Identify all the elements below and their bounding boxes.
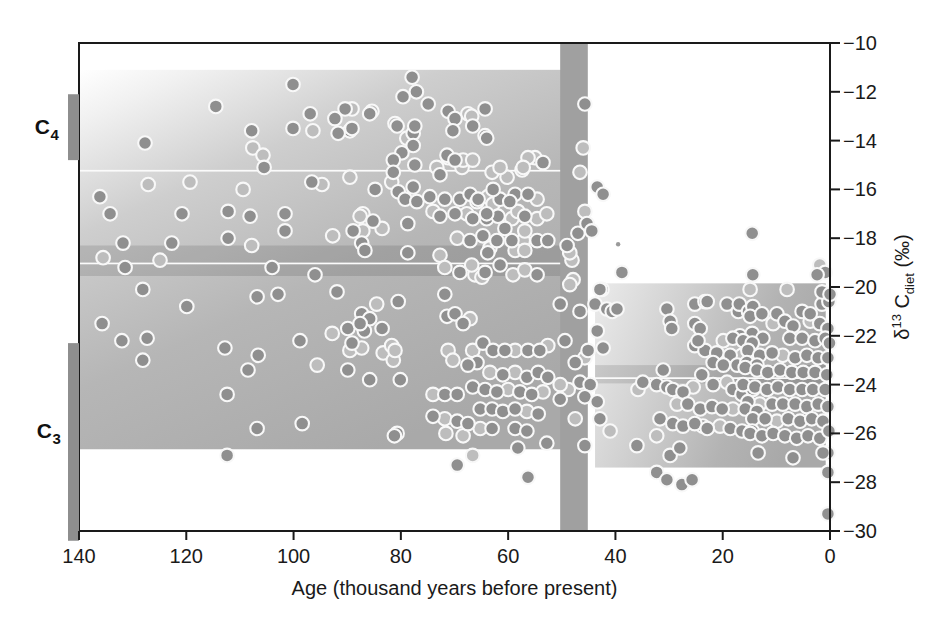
data-point-dark bbox=[136, 283, 150, 297]
data-point-light bbox=[183, 175, 197, 189]
data-point-dark bbox=[481, 246, 495, 260]
data-point-light bbox=[343, 170, 357, 184]
plot-content bbox=[68, 43, 840, 541]
x-tick-label: 0 bbox=[800, 544, 860, 568]
data-point-dark bbox=[531, 407, 545, 421]
data-point-dark bbox=[368, 183, 382, 197]
data-point-dark bbox=[496, 405, 510, 419]
data-point-dark bbox=[221, 231, 235, 245]
data-point-dark bbox=[308, 268, 322, 282]
data-point-light bbox=[540, 207, 554, 221]
data-point-dark bbox=[820, 368, 834, 382]
data-point-dark bbox=[715, 402, 729, 416]
data-point-dark bbox=[433, 209, 447, 223]
data-point-dark bbox=[485, 422, 499, 436]
data-point-dark bbox=[700, 295, 714, 309]
data-point-light bbox=[326, 229, 340, 243]
data-point-dark bbox=[478, 102, 492, 116]
data-point-dark bbox=[755, 307, 769, 321]
data-point-dark bbox=[265, 261, 279, 275]
x-tick-label: 100 bbox=[264, 544, 324, 568]
data-point-dark bbox=[520, 424, 534, 438]
data-point-dark bbox=[540, 436, 554, 450]
x-tick-label: 20 bbox=[693, 544, 753, 568]
data-point-dark bbox=[480, 131, 494, 145]
data-point-dark bbox=[463, 234, 477, 248]
data-point-dark bbox=[251, 349, 265, 363]
data-point-dark bbox=[396, 90, 410, 104]
data-point-dark bbox=[293, 334, 307, 348]
data-point-dark bbox=[511, 441, 525, 455]
data-point-dark bbox=[406, 180, 420, 194]
data-point-dark bbox=[453, 266, 467, 280]
data-point-light bbox=[603, 424, 617, 438]
x-tick-label: 140 bbox=[49, 544, 109, 568]
data-point-dark bbox=[822, 424, 836, 438]
data-point-dark bbox=[243, 209, 257, 223]
data-point-dark bbox=[401, 246, 415, 260]
data-point-dark bbox=[363, 373, 377, 387]
data-point-dark bbox=[250, 422, 264, 436]
x-axis-title: Age (thousand years before present) bbox=[79, 577, 830, 600]
data-point-dark bbox=[593, 412, 607, 426]
data-point-light bbox=[780, 283, 794, 297]
data-point-dark bbox=[353, 317, 367, 331]
data-point-dark bbox=[498, 222, 512, 236]
data-point-light bbox=[576, 141, 590, 155]
data-point-dark bbox=[390, 119, 404, 133]
x-tick-label: 120 bbox=[156, 544, 216, 568]
data-point-dark bbox=[695, 368, 709, 382]
data-point-dark bbox=[615, 266, 629, 280]
data-point-dark bbox=[585, 224, 599, 238]
data-point-dark bbox=[446, 124, 460, 138]
data-point-dark bbox=[525, 388, 539, 402]
data-point-dark bbox=[746, 268, 760, 282]
data-point-dark bbox=[581, 344, 595, 358]
data-point-dark bbox=[118, 261, 132, 275]
y-tick-label: −24 bbox=[843, 373, 913, 397]
data-point-dark bbox=[330, 285, 344, 299]
x-tick-label: 60 bbox=[478, 544, 538, 568]
data-point-dark bbox=[795, 331, 809, 345]
data-point-dark bbox=[476, 229, 490, 243]
data-point-dark bbox=[331, 127, 345, 141]
data-point-dark bbox=[209, 100, 223, 114]
data-point-light bbox=[438, 261, 452, 275]
data-point-dark bbox=[578, 439, 592, 453]
x-tick-label: 40 bbox=[585, 544, 645, 568]
data-point-light bbox=[563, 278, 577, 292]
data-point-dark bbox=[138, 136, 152, 150]
data-point-dark bbox=[363, 107, 377, 121]
data-point-dark bbox=[345, 122, 359, 136]
data-point-dark bbox=[408, 119, 422, 133]
data-point-dark bbox=[180, 300, 194, 314]
data-point-dark bbox=[590, 324, 604, 338]
y-tick-label: −16 bbox=[843, 177, 913, 201]
data-point-dark bbox=[758, 412, 772, 426]
data-point-dark bbox=[673, 441, 687, 455]
data-point-dark bbox=[401, 217, 415, 231]
data-point-dark bbox=[103, 207, 117, 221]
data-point-light bbox=[743, 283, 757, 297]
speck bbox=[616, 242, 620, 246]
data-point-dark bbox=[560, 239, 574, 253]
figure: Age (thousand years before present) δ13 … bbox=[0, 0, 951, 632]
data-point-dark bbox=[241, 363, 255, 377]
y-tick-label: −18 bbox=[843, 226, 913, 250]
data-point-light bbox=[466, 449, 480, 463]
data-point-dark bbox=[426, 410, 440, 424]
data-point-dark bbox=[115, 334, 129, 348]
y-tick-label: −26 bbox=[843, 421, 913, 445]
y-tick-label: −28 bbox=[843, 470, 913, 494]
data-point-dark bbox=[165, 236, 179, 250]
y-tick-label: −22 bbox=[843, 324, 913, 348]
data-point-dark bbox=[745, 227, 759, 241]
data-point-dark bbox=[341, 363, 355, 377]
data-point-dark bbox=[636, 375, 650, 389]
data-point-light bbox=[353, 209, 367, 223]
data-point-light bbox=[141, 178, 155, 192]
data-point-dark bbox=[486, 183, 500, 197]
data-point-dark bbox=[518, 209, 532, 223]
data-point-dark bbox=[496, 368, 510, 382]
data-point-dark bbox=[786, 451, 800, 465]
